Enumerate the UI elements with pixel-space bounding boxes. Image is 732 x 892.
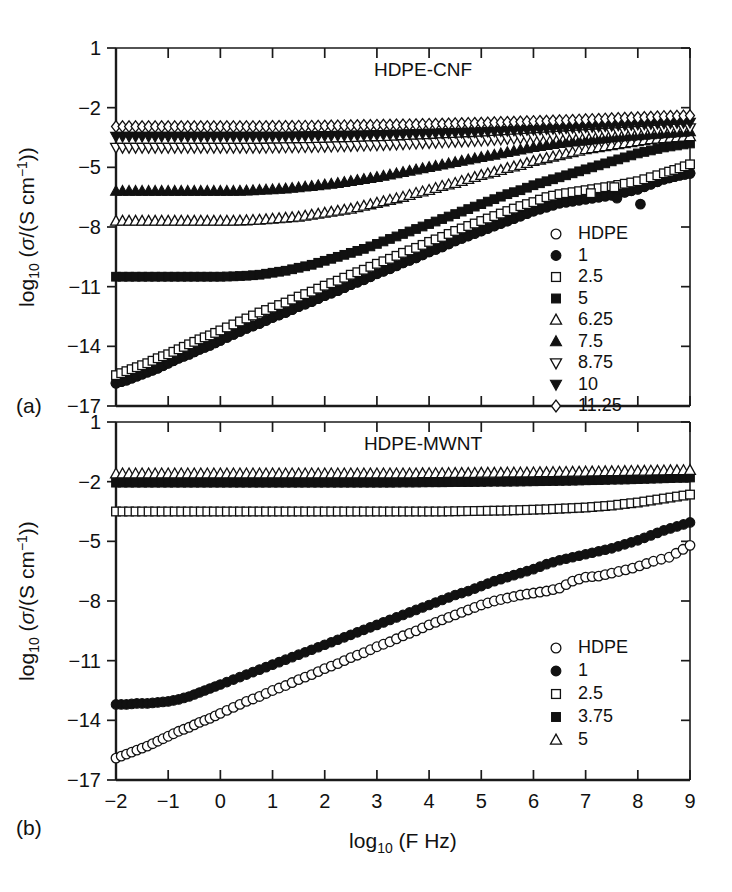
y-axis-title-text-b: log10 (σ/(S cm−1)) (14, 521, 42, 681)
legend-marker-8.75 (550, 359, 561, 369)
legend-item-8.75[interactable]: 8.75 (550, 352, 613, 372)
data-marker-HDPE (685, 541, 695, 551)
legend-item-1[interactable]: 1 (551, 660, 588, 680)
panel-b-ytick-label: 1 (90, 411, 101, 433)
xtick-label: 3 (371, 790, 382, 812)
data-marker-1 (685, 518, 695, 528)
xtick-label: 8 (632, 790, 643, 812)
panel-a-ytick-label: −11 (69, 276, 101, 298)
legend-label-6.25: 6.25 (578, 309, 613, 329)
outlier-marker-1 (636, 199, 646, 209)
series-1 (111, 518, 695, 710)
y-axis-title-text-a: log10 (σ/(S cm−1)) (14, 147, 42, 307)
panel-a-title: HDPE-CNF (374, 59, 472, 80)
legend-label-5: 5 (578, 288, 588, 308)
panel-a-ytick-label: −14 (67, 335, 101, 357)
legend-item-1[interactable]: 1 (551, 245, 588, 265)
legend-item-3.75[interactable]: 3.75 (552, 706, 613, 726)
legend-label-1: 1 (578, 660, 588, 680)
legend-marker-2.5 (552, 273, 561, 282)
panel-a-ytick-label: −8 (78, 216, 101, 238)
legend-item-7.5[interactable]: 7.5 (550, 331, 603, 351)
legend-marker-2.5 (552, 690, 561, 699)
legend-label-HDPE: HDPE (578, 637, 628, 657)
legend-label-2.5: 2.5 (578, 266, 603, 286)
panel-b-ytick-label: −2 (78, 471, 101, 493)
xtick-label: 5 (476, 790, 487, 812)
legend-label-7.5: 7.5 (578, 331, 603, 351)
panel-b: 1−2−5−8−11−14−17−2−10123456789HDPE-MWNT (67, 411, 696, 812)
legend-marker-11.25 (551, 400, 560, 412)
legend-marker-1 (551, 666, 561, 676)
xtick-label: 7 (580, 790, 591, 812)
legend-panel-b: HDPE12.53.755 (550, 637, 628, 749)
legend-item-10[interactable]: 10 (550, 374, 598, 394)
legend-item-2.5[interactable]: 2.5 (552, 683, 603, 703)
outlier-marker-2.5 (587, 189, 596, 198)
panel-label-b: (b) (16, 816, 42, 839)
figure-root: 1−2−5−8−11−14−17HDPE-CNF(a)HDPE12.556.25… (0, 0, 732, 892)
legend-label-5: 5 (578, 729, 588, 749)
legend-label-HDPE: HDPE (578, 223, 628, 243)
y-axis-title-a: log10 (σ/(S cm−1)) (14, 147, 42, 307)
xtick-label: −1 (157, 790, 180, 812)
legend-item-2.5[interactable]: 2.5 (552, 266, 603, 286)
legend-marker-HDPE (551, 229, 561, 239)
xtick-label: 1 (267, 790, 278, 812)
panel-b-ytick-label: −5 (78, 530, 101, 552)
legend-label-11.25: 11.25 (578, 395, 622, 415)
legend-marker-7.5 (550, 336, 561, 346)
legend-marker-1 (551, 251, 561, 261)
xtick-label: −2 (105, 790, 128, 812)
panel-a-ytick-label: −5 (78, 156, 101, 178)
legend-item-HDPE[interactable]: HDPE (551, 223, 628, 243)
legend-label-2.5: 2.5 (578, 683, 603, 703)
legend-item-6.25[interactable]: 6.25 (550, 309, 613, 329)
chart-svg: 1−2−5−8−11−14−17HDPE-CNF(a)HDPE12.556.25… (0, 0, 732, 892)
panel-b-ytick-label: −8 (78, 590, 101, 612)
xtick-label: 4 (424, 790, 435, 812)
panel-b-ytick-label: −17 (67, 769, 101, 791)
xtick-label: 9 (684, 790, 695, 812)
legend-marker-10 (550, 380, 561, 390)
x-axis-title: log10 (F Hz) (349, 829, 457, 856)
y-axis-title-b: log10 (σ/(S cm−1)) (14, 521, 42, 681)
legend-item-5[interactable]: 5 (550, 729, 588, 749)
legend-label-8.75: 8.75 (578, 352, 613, 372)
legend-marker-HDPE (551, 643, 561, 653)
legend-item-5[interactable]: 5 (552, 288, 588, 308)
legend-marker-5 (550, 734, 561, 744)
data-marker-2.5 (686, 490, 695, 499)
series-5 (111, 465, 696, 478)
legend-label-3.75: 3.75 (578, 706, 613, 726)
legend-label-10: 10 (578, 374, 598, 394)
panel-label-a: (a) (16, 394, 42, 417)
series-2.5 (112, 490, 695, 516)
panel-b-ytick-label: −14 (67, 709, 101, 731)
xtick-label: 2 (319, 790, 330, 812)
panel-a-ytick-label: 1 (90, 37, 101, 59)
panel-b-ytick-label: −11 (69, 650, 101, 672)
legend-item-HDPE[interactable]: HDPE (551, 637, 628, 657)
legend-marker-6.25 (550, 314, 561, 324)
outlier-marker-2.5 (610, 183, 619, 192)
outlier-marker-1 (612, 193, 622, 203)
legend-marker-3.75 (552, 713, 561, 722)
panel-a-ytick-label: −2 (78, 97, 101, 119)
xtick-label: 0 (215, 790, 226, 812)
xtick-label: 6 (528, 790, 539, 812)
legend-label-1: 1 (578, 245, 588, 265)
legend-panel-a: HDPE12.556.257.58.751011.25 (550, 223, 628, 415)
data-marker-2.5 (686, 160, 695, 169)
panel-b-title: HDPE-MWNT (364, 433, 483, 454)
legend-marker-5 (552, 294, 561, 303)
